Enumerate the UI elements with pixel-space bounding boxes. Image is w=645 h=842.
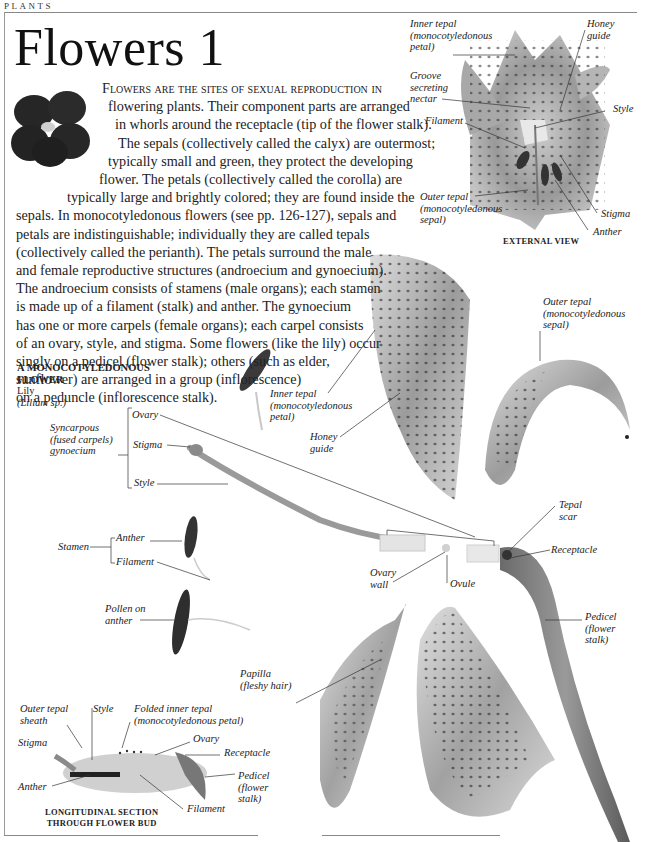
intro-line: The sepals (collectively called the caly… bbox=[12, 134, 407, 152]
label-bud-ovary: Ovary bbox=[193, 733, 219, 745]
pollen-anther-image bbox=[168, 588, 250, 655]
label-stamen: Stamen bbox=[58, 541, 89, 553]
label-syncarpous-gynoecium: Syncarpous (fused carpels) gynoecium bbox=[50, 422, 113, 457]
caption-bud-section: LONGITUDINAL SECTION THROUGH FLOWER BUD bbox=[45, 807, 158, 829]
label-honey-guide-external: Honey guide bbox=[587, 18, 614, 41]
lower-inner-tepal-image bbox=[320, 604, 406, 808]
label-ovule: Ovule bbox=[450, 578, 475, 590]
label-stigma: Stigma bbox=[133, 439, 162, 451]
label-style: Style bbox=[134, 477, 154, 489]
label-receptacle: Receptacle bbox=[551, 544, 597, 556]
label-bud-stigma: Stigma bbox=[18, 737, 47, 749]
intro-line: has one or more carpels (female organs);… bbox=[12, 316, 407, 334]
label-honey-guide: Honey guide bbox=[310, 431, 337, 454]
intro-line: flowering plants. Their component parts … bbox=[12, 97, 407, 115]
label-outer-tepal: Outer tepal (monocotyledonous sepal) bbox=[543, 296, 625, 331]
label-outer-tepal-external: Outer tepal (monocotyledonous sepal) bbox=[420, 191, 502, 226]
specimen-heading: A MONOCOTYLEDONOUS FLOWER Lily (Lilium s… bbox=[17, 362, 150, 408]
label-inner-tepal-external: Inner tepal (monocotyledonous petal) bbox=[410, 18, 492, 53]
specimen-heading-line: A MONOCOTYLEDONOUS bbox=[17, 362, 150, 374]
intro-line: flower. The petals (collectively called … bbox=[12, 170, 407, 188]
label-stigma-external: Stigma bbox=[601, 208, 630, 220]
caption-external-view: EXTERNAL VIEW bbox=[503, 236, 579, 247]
label-ovary-wall: Ovary wall bbox=[370, 567, 396, 590]
stamen-image bbox=[182, 515, 210, 580]
outer-tepal-image bbox=[485, 360, 630, 485]
intro-line: in whorls around the receptacle (tip of … bbox=[12, 115, 407, 133]
intro-line: typically small and green, they protect … bbox=[12, 152, 407, 170]
label-style-external: Style bbox=[613, 103, 633, 115]
label-folded-inner-tepal: Folded inner tepal (monocotyledonous pet… bbox=[134, 703, 243, 726]
label-pedicel: Pedicel (flower stalk) bbox=[585, 611, 616, 646]
intro-line: of an ovary, style, and stigma. Some flo… bbox=[12, 334, 407, 352]
label-ovary: Ovary bbox=[132, 409, 158, 421]
page-title: Flowers 1 bbox=[14, 18, 225, 78]
intro-paragraph: Flowers are the sites of sexual reproduc… bbox=[12, 79, 407, 407]
intro-line: The androecium consists of stamens (male… bbox=[12, 279, 407, 297]
label-inner-tepal: Inner tepal (monocotyledonous petal) bbox=[270, 388, 352, 423]
specimen-heading-line: FLOWER bbox=[17, 374, 150, 386]
label-anther-external: Anther bbox=[593, 226, 622, 238]
label-bud-receptacle: Receptacle bbox=[224, 747, 270, 759]
pedicel-image bbox=[500, 547, 630, 842]
intro-line: and female reproductive structures (andr… bbox=[12, 261, 407, 279]
label-anther: Anther bbox=[116, 532, 145, 544]
flower-bud-section-image bbox=[55, 750, 207, 800]
specimen-common-name: Lily bbox=[17, 385, 150, 397]
intro-line: (collectively called the perianth). The … bbox=[12, 243, 407, 261]
label-papilla: Papilla (fleshy hair) bbox=[240, 668, 292, 691]
intro-line: sepals. In monocotyledonous flowers (see… bbox=[12, 206, 407, 224]
lower-outer-tepal-image bbox=[417, 607, 555, 817]
label-bud-anther: Anther bbox=[18, 781, 47, 793]
label-bud-style: Style bbox=[93, 703, 113, 715]
label-tepal-scar: Tepal scar bbox=[559, 499, 582, 522]
intro-line: typically large and brightly colored; th… bbox=[12, 188, 407, 206]
label-filament-external: Filament bbox=[425, 115, 463, 127]
intro-line: is made up of a filament (stalk) and ant… bbox=[12, 297, 407, 315]
label-groove-nectar: Groove secreting nectar bbox=[410, 70, 448, 105]
intro-lead: Flowers are the sites of sexual reproduc… bbox=[12, 79, 407, 97]
label-outer-tepal-sheath: Outer tepal sheath bbox=[20, 703, 68, 726]
label-pollen-on-anther: Pollen on anther bbox=[105, 603, 146, 626]
label-bud-pedicel: Pedicel (flower stalk) bbox=[238, 770, 269, 805]
specimen-scientific-name: (Lilium sp.) bbox=[17, 397, 150, 409]
intro-line: petals are indistinguishable; individual… bbox=[12, 225, 407, 243]
label-filament: Filament bbox=[116, 556, 154, 568]
label-bud-filament: Filament bbox=[187, 803, 225, 815]
